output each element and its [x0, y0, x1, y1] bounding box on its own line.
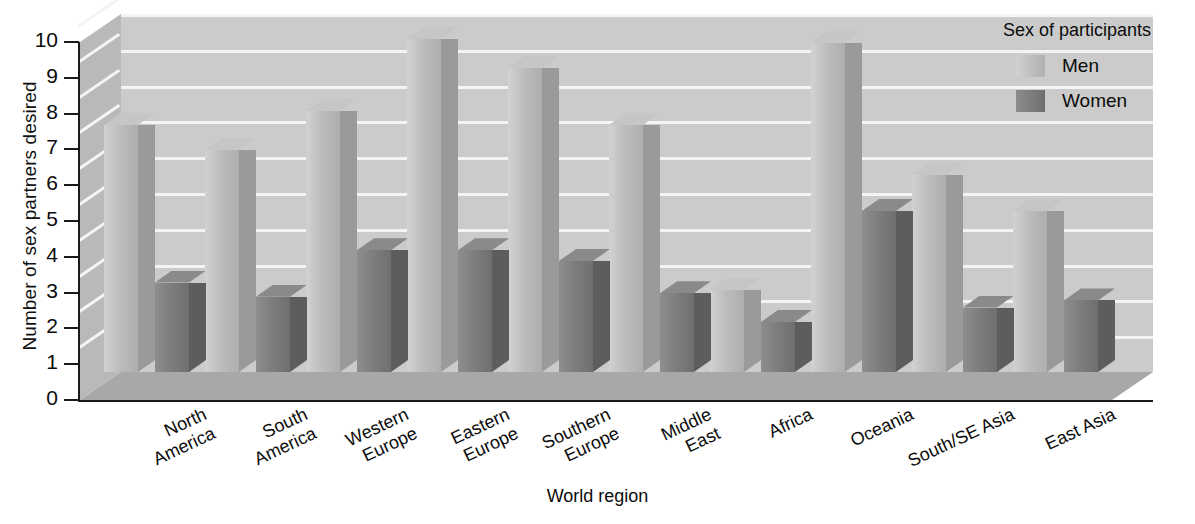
gridline — [121, 50, 1153, 53]
legend-title: Sex of participants — [1003, 20, 1193, 41]
bar-front-face — [407, 39, 441, 372]
bar-side-face — [441, 39, 458, 372]
y-axis-tick — [64, 292, 79, 294]
bar-front-face — [912, 175, 946, 372]
y-axis-tick — [64, 399, 79, 401]
bar-women-1[interactable] — [256, 297, 290, 372]
bar-women-0[interactable] — [155, 283, 189, 373]
bar-men-5[interactable] — [609, 125, 643, 372]
legend-swatch-men — [1016, 55, 1045, 77]
y-axis-tick-label: 3 — [12, 279, 58, 303]
bar-side-face — [391, 250, 408, 372]
y-axis-tick-label: 7 — [12, 135, 58, 159]
y-axis-tick — [64, 148, 79, 150]
bar-front-face — [205, 150, 239, 372]
plot-area — [80, 14, 1153, 400]
bar-side-face — [340, 111, 357, 372]
bar-front-face — [811, 43, 845, 372]
y-axis-tick-label: 9 — [12, 64, 58, 88]
y-axis-tick — [64, 256, 79, 258]
bar-side-face — [643, 125, 660, 372]
bar-side-face — [694, 293, 711, 372]
bar-chart: Number of sex partners desired 109876543… — [0, 0, 1195, 524]
gridline — [121, 86, 1153, 89]
bar-side-face — [1047, 211, 1064, 372]
bar-men-1[interactable] — [205, 150, 239, 372]
bar-front-face — [508, 68, 542, 372]
bar-front-face — [1013, 211, 1047, 372]
bar-front-face — [1064, 300, 1098, 372]
bar-side-face — [542, 68, 559, 372]
x-axis-title: World region — [0, 486, 1195, 507]
y-axis-tick — [64, 184, 79, 186]
y-axis-tick — [64, 41, 79, 43]
y-axis-tick — [64, 327, 79, 329]
bar-side-face — [946, 175, 963, 372]
y-axis-tick — [64, 113, 79, 115]
bar-side-face — [1098, 300, 1115, 372]
bar-men-6[interactable] — [710, 290, 744, 372]
bar-side-face — [290, 297, 307, 372]
bar-women-4[interactable] — [559, 261, 593, 372]
bar-men-8[interactable] — [912, 175, 946, 372]
bar-front-face — [256, 297, 290, 372]
bar-front-face — [559, 261, 593, 372]
y-axis-tick — [64, 77, 79, 79]
bar-men-9[interactable] — [1013, 211, 1047, 372]
bar-front-face — [104, 125, 138, 372]
bar-front-face — [963, 308, 997, 372]
bar-men-2[interactable] — [306, 111, 340, 372]
bar-women-3[interactable] — [458, 250, 492, 372]
legend-swatch-women — [1016, 90, 1045, 112]
legend-label-men: Men — [1062, 55, 1099, 77]
bar-front-face — [862, 211, 896, 372]
bar-side-face — [744, 290, 761, 372]
legend-label-women: Women — [1062, 90, 1127, 112]
bar-front-face — [609, 125, 643, 372]
bar-front-face — [458, 250, 492, 372]
plot-floor — [80, 372, 1153, 400]
bar-side-face — [492, 250, 509, 372]
bar-side-face — [189, 283, 206, 373]
bar-front-face — [761, 322, 795, 372]
bar-women-2[interactable] — [357, 250, 391, 372]
bar-men-7[interactable] — [811, 43, 845, 372]
bar-women-9[interactable] — [1064, 300, 1098, 372]
y-axis-tick — [64, 363, 79, 365]
bar-side-face — [239, 150, 256, 372]
legend-item-men[interactable]: Men — [1003, 55, 1193, 77]
bar-side-face — [138, 125, 155, 372]
y-axis-tick-label: 10 — [12, 28, 58, 52]
bar-front-face — [710, 290, 744, 372]
bar-women-6[interactable] — [761, 322, 795, 372]
bar-men-3[interactable] — [407, 39, 441, 372]
y-axis-tick-label: 1 — [12, 350, 58, 374]
bar-front-face — [306, 111, 340, 372]
x-axis-line — [78, 400, 1153, 402]
bar-men-0[interactable] — [104, 125, 138, 372]
bar-women-5[interactable] — [660, 293, 694, 372]
legend-item-women[interactable]: Women — [1003, 90, 1193, 112]
y-axis-tick-label: 8 — [12, 100, 58, 124]
y-axis-tick-label: 6 — [12, 171, 58, 195]
bar-side-face — [896, 211, 913, 372]
legend: Sex of participants Men Women — [1003, 20, 1193, 125]
bar-side-face — [845, 43, 862, 372]
bar-side-face — [593, 261, 610, 372]
y-axis-tick-label: 5 — [12, 207, 58, 231]
y-axis-tick-label: 0 — [12, 386, 58, 410]
y-axis-tick-label: 2 — [12, 314, 58, 338]
bar-front-face — [660, 293, 694, 372]
y-axis-tick — [64, 220, 79, 222]
bar-women-8[interactable] — [963, 308, 997, 372]
bar-front-face — [357, 250, 391, 372]
bar-women-7[interactable] — [862, 211, 896, 372]
y-axis-tick-label: 4 — [12, 243, 58, 267]
bar-front-face — [155, 283, 189, 373]
gridline — [121, 14, 1153, 17]
bar-men-4[interactable] — [508, 68, 542, 372]
